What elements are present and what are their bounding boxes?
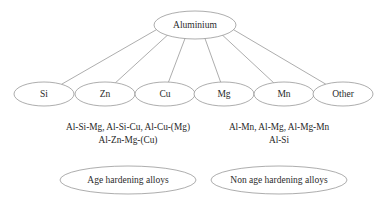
node-age-hardening-alloys[interactable]: Age hardening alloys bbox=[60, 166, 196, 194]
non-age-hardening-alloys-list-line-1: Al-Mn, Al-Mg, Al-Mg-Mn bbox=[229, 122, 330, 132]
node-age-hardening-alloys-label: Age hardening alloys bbox=[87, 175, 169, 185]
node-mg[interactable]: Mg bbox=[194, 82, 254, 106]
free-text-group: Al-Si-Mg, Al-Si-Cu, Al-Cu-(Mg)Al-Zn-Mg-(… bbox=[66, 122, 329, 146]
node-zn[interactable]: Zn bbox=[75, 82, 135, 106]
aluminium-alloy-classification-diagram: AluminiumSiZnCuMgMnOtherAge hardening al… bbox=[0, 0, 389, 208]
node-cu-label: Cu bbox=[159, 89, 170, 99]
node-zn-label: Zn bbox=[100, 89, 111, 99]
node-mg-label: Mg bbox=[217, 89, 230, 99]
node-other[interactable]: Other bbox=[313, 82, 373, 106]
edge-aluminium-to-mn bbox=[222, 34, 274, 82]
node-mn-label: Mn bbox=[277, 89, 290, 99]
node-mn[interactable]: Mn bbox=[254, 82, 314, 106]
node-si-label: Si bbox=[40, 89, 48, 99]
age-hardening-alloys-list-line-1: Al-Si-Mg, Al-Si-Cu, Al-Cu-(Mg) bbox=[66, 122, 190, 133]
edge-aluminium-to-zn bbox=[115, 34, 168, 82]
node-group: AluminiumSiZnCuMgMnOtherAge hardening al… bbox=[14, 11, 373, 194]
non-age-hardening-alloys-list-line-2: Al-Si bbox=[269, 135, 290, 145]
node-aluminium-label: Aluminium bbox=[173, 20, 217, 30]
node-other-label: Other bbox=[332, 89, 354, 99]
edge-aluminium-to-cu bbox=[168, 38, 185, 82]
diagram-canvas: AluminiumSiZnCuMgMnOtherAge hardening al… bbox=[0, 0, 389, 208]
edge-aluminium-to-mg bbox=[205, 38, 221, 82]
node-aluminium[interactable]: Aluminium bbox=[154, 11, 236, 39]
node-non-age-hardening-alloys[interactable]: Non age hardening alloys bbox=[211, 166, 347, 194]
node-cu[interactable]: Cu bbox=[135, 82, 195, 106]
age-hardening-alloys-list-line-2: Al-Zn-Mg-(Cu) bbox=[99, 135, 158, 146]
node-si[interactable]: Si bbox=[14, 82, 74, 106]
node-non-age-hardening-alloys-label: Non age hardening alloys bbox=[230, 175, 328, 185]
